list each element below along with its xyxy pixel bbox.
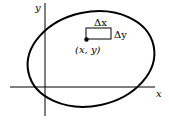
point-dot	[84, 37, 88, 41]
delta-y-label: Δy	[114, 29, 127, 40]
region-diagram: y x Δx Δy (x, y)	[0, 0, 169, 122]
area-element-rect	[86, 28, 111, 39]
x-axis-label: x	[156, 88, 162, 99]
point-label: (x, y)	[75, 44, 101, 55]
closed-region-curve	[19, 0, 164, 118]
y-axis-label: y	[34, 2, 41, 13]
delta-x-label: Δx	[94, 17, 107, 28]
